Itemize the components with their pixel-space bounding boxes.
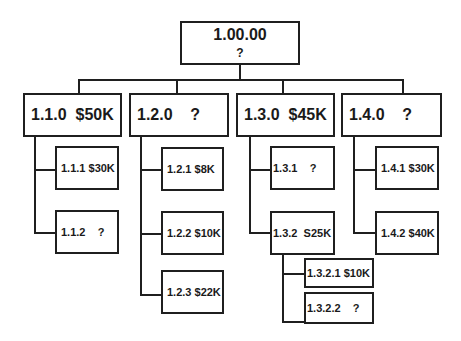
branch-1-2-3	[140, 294, 162, 296]
node-1-3-2-2: 1.3.2.2 ?	[304, 292, 374, 324]
trunk-1-3-2	[282, 254, 284, 323]
branch-1-3-2	[249, 232, 271, 234]
connector-to-1-2-0	[176, 79, 178, 94]
node-1-3-0: 1.3.0 $45K	[236, 93, 335, 137]
trunk-1-4	[353, 136, 355, 234]
branch-1-2-1	[140, 169, 162, 171]
node-1-1-2: 1.1.2 ?	[55, 210, 119, 254]
connector-to-1-4-0	[402, 79, 404, 94]
node-1-4-2: 1.4.2 $40K	[375, 211, 439, 255]
node-1-3-2-1: 1.3.2.1 $10K	[304, 258, 374, 288]
trunk-1-2	[140, 136, 142, 296]
branch-1-2-2	[140, 233, 162, 235]
node-1-1-0: 1.1.0 $50K	[23, 93, 122, 137]
node-root-value: ?	[182, 46, 298, 60]
branch-1-4-2	[353, 232, 376, 234]
trunk-1-1	[34, 136, 36, 234]
connector-level1-bus	[78, 79, 404, 81]
node-1-2-3: 1.2.3 $22K	[161, 270, 224, 314]
connector-to-1-3-0	[282, 79, 284, 94]
branch-1-1-2	[34, 232, 56, 234]
node-1-2-1: 1.2.1 $8K	[161, 147, 224, 191]
node-1-3-1: 1.3.1 ?	[270, 146, 335, 190]
node-1-1-1: 1.1.1 $30K	[55, 146, 119, 190]
branch-1-3-1	[249, 169, 271, 171]
node-1-4-1: 1.4.1 $30K	[375, 146, 439, 190]
branch-1-3-2-1	[282, 273, 305, 275]
connector-to-1-1-0	[78, 79, 80, 94]
branch-1-3-2-2	[282, 321, 305, 323]
node-root: 1.00.00 ?	[180, 21, 300, 65]
trunk-1-3	[249, 136, 251, 234]
node-1-2-2: 1.2.2 $10K	[161, 211, 224, 255]
node-1-4-0: 1.4.0 ?	[341, 93, 442, 137]
branch-1-4-1	[353, 169, 376, 171]
node-1-3-2: 1.3.2 S25K	[270, 211, 335, 255]
node-1-2-0: 1.2.0 ?	[129, 93, 229, 137]
node-root-id: 1.00.00	[182, 26, 298, 44]
branch-1-1-1	[34, 169, 56, 171]
